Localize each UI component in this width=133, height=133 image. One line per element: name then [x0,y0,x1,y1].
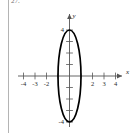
x-tick-label-2: 2 [91,80,94,87]
y-axis-arrow-icon [67,14,72,19]
y-tick-label--4: -4 [59,118,65,125]
x-tick-label--4: -4 [21,80,27,87]
coordinate-plot: y x -4 -3 -2 2 3 4 4 -4 [0,0,133,133]
x-axis-label: x [125,68,130,76]
x-tick-label--3: -3 [32,80,37,87]
plot-svg: y x -4 -3 -2 2 3 4 4 -4 [0,0,133,133]
y-tick-label-4: 4 [61,26,65,33]
x-tick-label-3: 3 [102,80,105,87]
y-axis-label: y [72,12,77,20]
x-axis [18,73,122,80]
figure-container: 27. [0,0,133,133]
x-tick-label-4: 4 [114,80,118,87]
x-axis-arrow-icon [117,74,122,79]
x-tick-label--2: -2 [44,80,49,87]
